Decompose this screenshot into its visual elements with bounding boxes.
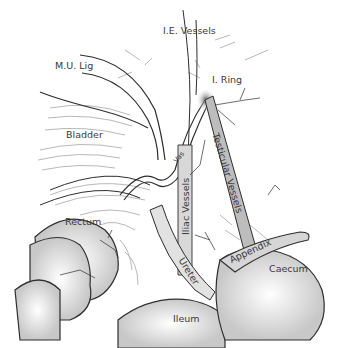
label-i-ring: I. Ring [212,75,242,85]
anatomy-diagram: I.E. Vessels M.U. Lig I. Ring Bladder Va… [0,0,339,348]
ileum [118,299,225,348]
label-caecum: Caecum [269,264,308,274]
label-iliac-vessels: Iliac Vessels [181,178,191,235]
label-ileum: Ileum [173,314,200,324]
label-ie-vessels: I.E. Vessels [163,26,216,36]
bladder-contour [40,176,150,205]
anatomy-drawing [0,0,339,348]
label-mu-lig: M.U. Lig [55,61,93,71]
label-rectum: Rectum [65,217,101,227]
label-bladder: Bladder [66,130,103,140]
